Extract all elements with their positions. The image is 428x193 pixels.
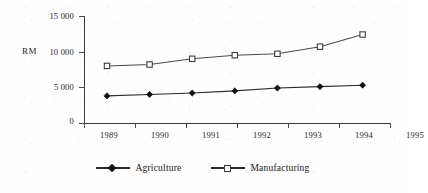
- legend-item-manufacturing: Manufacturing: [211, 163, 309, 173]
- data-point: [275, 51, 280, 56]
- series-markers-agriculture: [104, 82, 366, 99]
- data-point: [360, 32, 365, 37]
- data-point: [147, 91, 153, 97]
- series-line-manufacturing: [107, 35, 363, 66]
- data-point: [317, 44, 322, 49]
- legend-label-manufacturing: Manufacturing: [250, 163, 309, 173]
- data-point: [274, 85, 280, 91]
- open-square-icon: [211, 163, 245, 173]
- data-point: [147, 62, 152, 67]
- data-point: [232, 53, 237, 58]
- legend-label-agriculture: Agriculture: [135, 163, 181, 173]
- legend-item-agriculture: Agriculture: [96, 163, 181, 173]
- data-point: [190, 56, 195, 61]
- data-point: [104, 93, 110, 99]
- data-point: [189, 90, 195, 96]
- data-point: [360, 82, 366, 88]
- data-point: [317, 84, 323, 90]
- data-point: [232, 88, 238, 94]
- series-markers-manufacturing: [104, 32, 365, 69]
- chart-legend: Agriculture Manufacturing: [0, 163, 406, 173]
- data-point: [104, 63, 109, 68]
- filled-diamond-icon: [96, 163, 130, 173]
